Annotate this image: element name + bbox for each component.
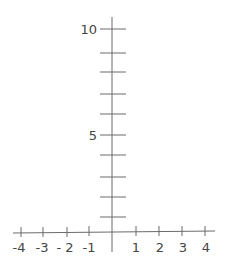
x-label-4: 4 — [202, 240, 210, 255]
x-label-m2: - 2 — [56, 240, 73, 255]
x-label-m1: -1 — [83, 240, 96, 255]
y-label-10: 10 — [80, 22, 97, 37]
x-label-2: 2 — [156, 240, 164, 255]
coordinate-plane: 10 5 -4 -3 - 2 -1 1 2 3 4 — [0, 0, 225, 272]
y-label-5: 5 — [89, 128, 97, 143]
x-label-m4: -4 — [13, 240, 26, 255]
y-ticks — [100, 29, 126, 217]
x-label-m3: -3 — [36, 240, 49, 255]
x-label-1: 1 — [132, 240, 140, 255]
x-label-3: 3 — [179, 240, 187, 255]
